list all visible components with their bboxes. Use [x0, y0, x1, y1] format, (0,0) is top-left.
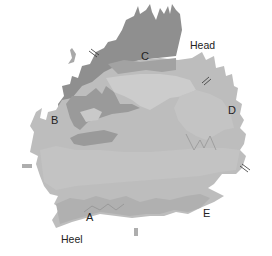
break-mark-bottom: [135, 228, 137, 236]
label-d: D: [228, 105, 236, 116]
break-mark-left: [22, 165, 32, 167]
label-e: E: [203, 208, 210, 219]
label-a: A: [86, 212, 93, 223]
label-c: C: [141, 51, 149, 62]
label-heel: Heel: [61, 234, 83, 245]
fire-spread-diagram: [0, 0, 272, 256]
label-head: Head: [190, 40, 215, 51]
flame-tip-left: [68, 48, 76, 64]
label-b: B: [51, 115, 58, 126]
